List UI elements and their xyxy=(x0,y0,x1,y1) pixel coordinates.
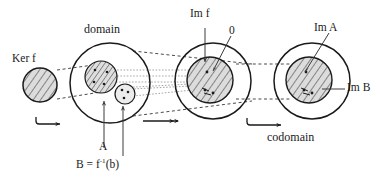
ima-circle xyxy=(286,57,332,103)
label-set-a: A xyxy=(99,141,107,153)
double-head-arrow-surjection xyxy=(143,119,179,124)
label-codomain: codomain xyxy=(267,131,314,143)
label-im-a: Im A xyxy=(314,22,337,34)
label-set-b: B = f-1(b) xyxy=(76,158,119,170)
label-set-b-suffix: (b) xyxy=(106,158,119,170)
dashed-kerf-bottom xyxy=(57,92,101,99)
label-set-b-prefix: B = f xyxy=(76,158,100,170)
label-ker-f: Ker f xyxy=(12,53,36,65)
imf-inner-circle xyxy=(187,57,233,103)
label-domain: domain xyxy=(84,23,120,35)
label-im-f: Im f xyxy=(190,8,209,20)
kernel-circle xyxy=(23,68,57,102)
set-b-circle xyxy=(115,84,135,104)
set-a-circle xyxy=(85,61,117,93)
diagram-canvas: Ker f domain Im f 0 Im A Im B codomain A… xyxy=(0,0,380,181)
dashed-domain-top xyxy=(133,51,252,64)
label-im-b: Im B xyxy=(347,82,370,94)
hooked-arrow-injection-2 xyxy=(247,118,281,127)
hooked-arrow-injection-1 xyxy=(36,117,60,126)
label-zero: 0 xyxy=(229,25,235,37)
